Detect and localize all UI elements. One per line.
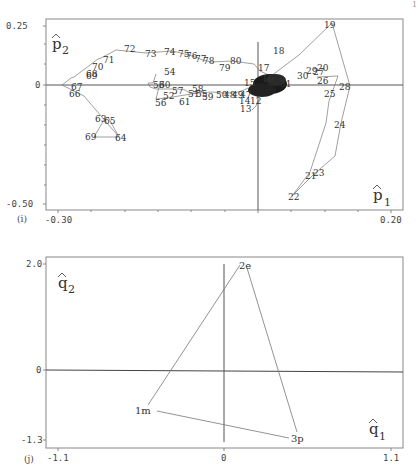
chart-i-ylabel: p 2 xyxy=(52,34,69,57)
point-label: 10 xyxy=(262,74,274,84)
point-label: 47 xyxy=(240,90,252,100)
chart-i-xlabel: p 1 xyxy=(373,185,391,209)
point-label: 13 xyxy=(240,104,252,114)
point-label: 69 xyxy=(86,71,98,81)
point-label: 54 xyxy=(164,67,176,77)
point-label: 66 xyxy=(69,89,81,99)
point-label: 79 xyxy=(219,63,231,73)
point-label: 17 xyxy=(258,63,270,73)
point-label-2e: 2e xyxy=(239,260,251,271)
chart-i-point-labels: 19 18 17 20 29 27 30 26 28 25 24 23 21 2… xyxy=(69,20,351,202)
point-label: 26 xyxy=(317,76,329,86)
chart-j-triangle xyxy=(148,265,297,438)
chart-j-xtick-right: 1.1 xyxy=(383,453,399,463)
svg-text:q: q xyxy=(369,420,379,438)
chart-i-xtick-left: -0.30 xyxy=(45,215,72,225)
chart-j-ylabel: q 2 xyxy=(58,273,75,296)
point-label: 21 xyxy=(305,171,316,181)
point-label: 56 xyxy=(155,98,167,108)
chart-i: 0.25 0 -0.50 -0.30 0.20 (i) p 2 p 1 xyxy=(6,19,403,225)
point-label: 30 xyxy=(297,71,309,81)
chart-j-ytick-top: 2.0 xyxy=(26,259,42,269)
point-label: 74 xyxy=(164,47,176,57)
chart-j-xtick-left: -1.1 xyxy=(47,453,69,463)
point-label: 31 xyxy=(280,79,291,89)
chart-j-ytick-bottom: -1.3 xyxy=(21,435,43,445)
chart-i-ytick-bottom: -0.50 xyxy=(6,199,33,209)
svg-text:1: 1 xyxy=(384,196,391,209)
point-label: 24 xyxy=(334,120,346,130)
point-label: 18 xyxy=(273,46,285,56)
chart-j-xlabel: q 1 xyxy=(369,419,386,443)
point-label: 59 xyxy=(202,92,214,102)
point-label: 61 xyxy=(179,97,190,107)
point-label: 65 xyxy=(104,116,116,126)
chart-j-xtick-zero: 0 xyxy=(221,453,226,463)
chart-i-ytick-top: 0.25 xyxy=(6,21,28,31)
figure: 1 xyxy=(0,0,419,472)
point-label: 72 xyxy=(124,44,135,54)
page-number: 1 xyxy=(412,0,417,9)
point-label: 80 xyxy=(230,56,242,66)
chart-j-panel-label: (j) xyxy=(24,454,34,464)
chart-j-ytick-zero: 0 xyxy=(36,365,41,375)
chart-i-panel-label: (i) xyxy=(17,214,27,224)
chart-i-ytick-zero: 0 xyxy=(35,80,40,90)
point-label: 12 xyxy=(250,96,261,106)
point-label: 28 xyxy=(339,82,351,92)
point-label: 25 xyxy=(324,89,336,99)
point-label: 60 xyxy=(159,80,171,90)
point-label: 71 xyxy=(103,55,114,65)
svg-text:2: 2 xyxy=(68,283,75,296)
point-label: 73 xyxy=(145,49,157,59)
point-label: 19 xyxy=(324,20,336,30)
svg-text:1: 1 xyxy=(379,430,386,443)
chart-j: 2.0 0 -1.3 -1.1 0 1.1 (j) q 2 q 1 2e 1m … xyxy=(21,257,403,464)
point-label: 22 xyxy=(288,192,299,202)
point-label-3p: 3p xyxy=(291,433,304,444)
point-label: 15 xyxy=(244,78,256,88)
chart-i-xtick-right: 0.20 xyxy=(380,215,402,225)
point-label-1m: 1m xyxy=(135,405,151,416)
point-label: 75 xyxy=(178,49,190,59)
point-label: 57 xyxy=(172,86,184,96)
point-label: 64 xyxy=(115,133,127,143)
svg-text:q: q xyxy=(58,274,68,292)
svg-text:2: 2 xyxy=(62,44,69,57)
point-label: 69 xyxy=(85,132,97,142)
